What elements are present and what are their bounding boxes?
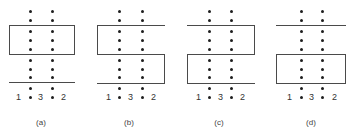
bottom-line — [97, 83, 165, 84]
left-vertical — [97, 25, 98, 55]
middle-line — [187, 54, 255, 55]
label-3: 3 — [309, 93, 314, 102]
box-bottom-edge — [276, 83, 346, 84]
box-top-edge — [276, 54, 346, 55]
dot — [141, 96, 144, 99]
dot — [300, 59, 303, 62]
caption: (c) — [214, 118, 223, 127]
dot — [230, 48, 233, 51]
dot — [300, 19, 303, 22]
label-3: 3 — [218, 93, 223, 102]
dot — [230, 30, 233, 33]
dot — [208, 39, 211, 42]
dot — [141, 76, 144, 79]
dot — [300, 39, 303, 42]
dot — [208, 30, 211, 33]
dot — [321, 68, 324, 71]
dot — [141, 10, 144, 13]
dot — [230, 76, 233, 79]
dot — [208, 96, 211, 99]
top-line — [187, 25, 255, 26]
dot — [230, 10, 233, 13]
dot — [208, 10, 211, 13]
dot — [141, 87, 144, 90]
dot — [300, 96, 303, 99]
dot — [230, 59, 233, 62]
dot — [118, 59, 121, 62]
label-1: 1 — [196, 93, 201, 102]
label-1: 1 — [287, 93, 292, 102]
dot — [118, 39, 121, 42]
dot — [300, 68, 303, 71]
dot — [230, 68, 233, 71]
dot — [321, 30, 324, 33]
dot — [118, 76, 121, 79]
dot — [141, 39, 144, 42]
dot — [141, 30, 144, 33]
dot — [141, 68, 144, 71]
dot — [118, 96, 121, 99]
dot — [321, 48, 324, 51]
dot — [230, 39, 233, 42]
label-2: 2 — [240, 93, 245, 102]
box-right-edge — [345, 54, 346, 84]
top-line — [276, 25, 346, 26]
dot — [300, 87, 303, 90]
label-3: 3 — [128, 93, 133, 102]
dot — [321, 39, 324, 42]
dot — [230, 87, 233, 90]
dot — [321, 76, 324, 79]
caption: (d) — [306, 118, 316, 127]
dot — [118, 48, 121, 51]
label-1: 1 — [106, 93, 111, 102]
top-line — [97, 25, 165, 26]
right-vertical — [254, 25, 255, 55]
dot — [208, 87, 211, 90]
dot — [208, 48, 211, 51]
left-vertical — [187, 54, 188, 83]
dot — [208, 59, 211, 62]
box-left-edge — [276, 54, 277, 84]
dot — [141, 59, 144, 62]
dot — [208, 19, 211, 22]
dot — [118, 30, 121, 33]
bottom-line — [187, 83, 255, 84]
middle-line — [97, 54, 165, 55]
panel-b: 1 3 2 (b) 1 3 2 (c) 1 3 — [0, 0, 353, 135]
dot — [300, 30, 303, 33]
dot — [300, 76, 303, 79]
dot — [208, 76, 211, 79]
dot — [118, 68, 121, 71]
dot — [321, 87, 324, 90]
dot — [300, 10, 303, 13]
dot — [321, 10, 324, 13]
right-vertical — [164, 54, 165, 83]
dot — [141, 19, 144, 22]
dot — [230, 19, 233, 22]
label-2: 2 — [151, 93, 156, 102]
dot — [208, 68, 211, 71]
caption: (b) — [124, 118, 134, 127]
label-2: 2 — [332, 93, 337, 102]
dot — [321, 19, 324, 22]
dot — [118, 19, 121, 22]
dot — [230, 96, 233, 99]
dot — [141, 48, 144, 51]
dot — [321, 59, 324, 62]
dot — [300, 48, 303, 51]
dot — [118, 87, 121, 90]
dot — [118, 10, 121, 13]
dot — [321, 96, 324, 99]
